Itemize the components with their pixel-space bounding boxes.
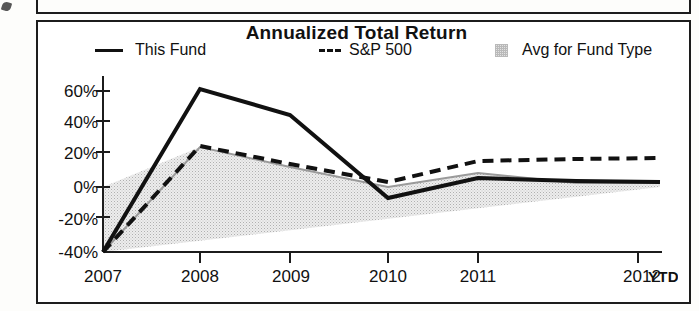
chart-plot-area [0,0,699,311]
scanned-page: Annualized Total Return This Fund S&P 50… [0,0,699,311]
